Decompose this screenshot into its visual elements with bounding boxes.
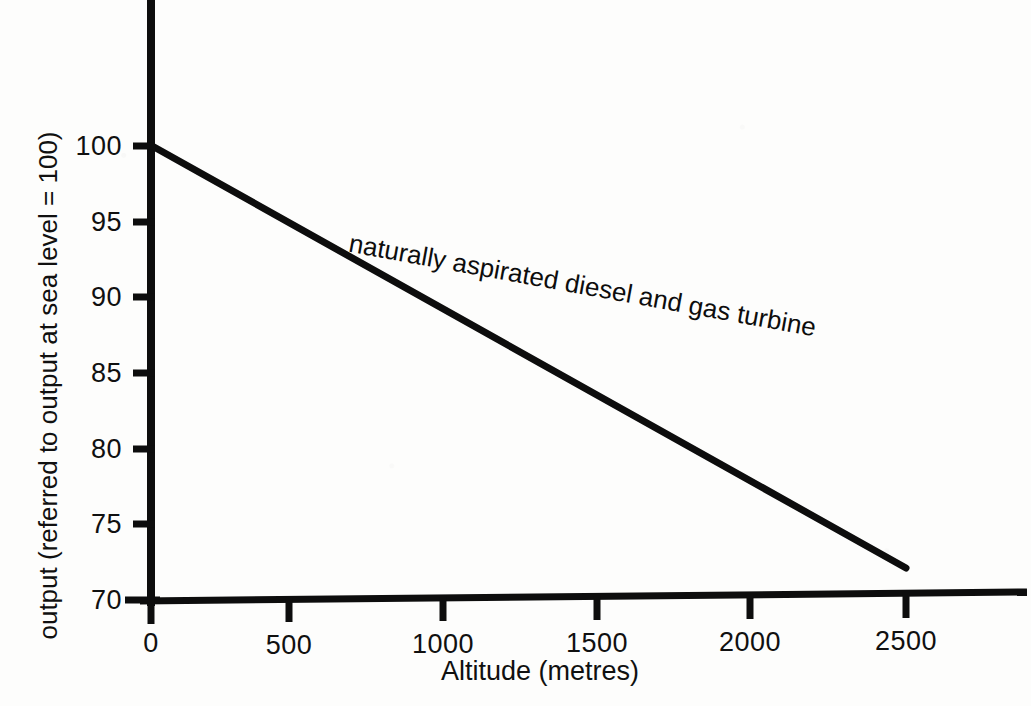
- y-tick-label-100: 100: [60, 131, 122, 162]
- x-tick-label-2500: 2500: [875, 626, 937, 657]
- x-tick-label-0: 0: [143, 628, 159, 659]
- series-line-naturally-aspirated: [154, 147, 906, 568]
- y-tick-label-70: 70: [60, 585, 122, 616]
- y-tick-label-90: 90: [60, 282, 122, 313]
- chart-page: 100 95 90 85 80 75 70 0 500 1000 1500 20…: [0, 0, 1031, 706]
- y-tick-label-75: 75: [60, 509, 122, 540]
- y-tick-label-95: 95: [60, 207, 122, 238]
- y-tick-label-85: 85: [60, 358, 122, 389]
- x-axis-line: [140, 592, 1027, 601]
- x-tick-label-500: 500: [266, 630, 313, 661]
- y-tick-label-80: 80: [60, 434, 122, 465]
- plot-area: [0, 0, 1031, 706]
- y-axis-title: output (referred to output at sea level …: [33, 126, 64, 646]
- x-tick-label-1500: 1500: [566, 628, 628, 659]
- x-tick-label-2000: 2000: [719, 627, 781, 658]
- x-axis-title: Altitude (metres): [400, 656, 680, 687]
